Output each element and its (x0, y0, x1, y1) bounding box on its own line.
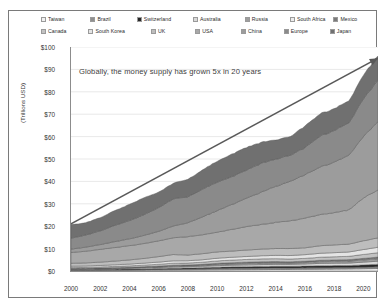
legend-item-south-africa[interactable]: South Africa (290, 13, 326, 25)
legend-swatch-icon (195, 29, 200, 34)
legend-swatch-icon (333, 17, 338, 22)
legend-swatch-icon (245, 17, 250, 22)
x-axis-tick-label: 2016 (298, 285, 312, 292)
legend-item-label: Taiwan (48, 16, 64, 22)
stacked-area-plot (71, 47, 378, 271)
legend-swatch-icon (90, 17, 95, 22)
legend-item-uk[interactable]: UK (151, 25, 165, 37)
legend-item-label: UK (158, 28, 165, 34)
legend-item-label: Mexico (340, 16, 357, 22)
y-axis-line (70, 47, 71, 271)
legend-item-label: Switzerland (144, 16, 171, 22)
legend-item-china[interactable]: China (241, 25, 262, 37)
legend-swatch-icon (41, 17, 46, 22)
legend-item-switzerland[interactable]: Switzerland (137, 13, 171, 25)
legend-item-label: Europe (291, 28, 308, 34)
legend-item-russia[interactable]: Russia (245, 13, 268, 25)
chart-legend: TaiwanBrazilSwitzerlandAustraliaRussiaSo… (41, 13, 375, 39)
legend-item-australia[interactable]: Australia (193, 13, 221, 25)
y-axis-tick-label: $50 (25, 156, 55, 163)
legend-item-south-korea[interactable]: South Korea (88, 25, 124, 37)
y-axis: $100$90$80$70$60$50$40$30$20$10$0 (25, 47, 55, 271)
legend-item-mexico[interactable]: Mexico (333, 13, 357, 25)
x-axis-tick-label: 2004 (122, 285, 136, 292)
legend-swatch-icon (193, 17, 198, 22)
legend-swatch-icon (151, 29, 156, 34)
y-axis-tick-label: $100 (25, 44, 55, 51)
y-axis-tick-label: $90 (25, 66, 55, 73)
legend-item-label: USA (202, 28, 213, 34)
plot-area (63, 47, 378, 282)
legend-item-canada[interactable]: Canada (41, 25, 66, 37)
y-axis-tick-label: $80 (25, 88, 55, 95)
legend-item-label: Australia (200, 16, 221, 22)
legend-item-brazil[interactable]: Brazil (90, 13, 110, 25)
legend-item-label: Canada (48, 28, 66, 34)
chart-annotation: Globally, the money supply has grown 5x … (79, 67, 261, 76)
x-axis: 2000200220042006200820102012201420162018… (71, 285, 378, 299)
y-axis-tick-label: $70 (25, 111, 55, 118)
legend-item-europe[interactable]: Europe (284, 25, 308, 37)
y-axis-tick-label: $40 (25, 178, 55, 185)
legend-swatch-icon (330, 29, 335, 34)
legend-item-usa[interactable]: USA (195, 25, 213, 37)
legend-swatch-icon (284, 29, 289, 34)
legend-swatch-icon (137, 17, 142, 22)
legend-item-japan[interactable]: Japan (330, 25, 351, 37)
area-series-group (71, 47, 378, 271)
legend-item-label: South Africa (297, 16, 326, 22)
y-axis-tick-label: $60 (25, 133, 55, 140)
x-axis-tick-label: 2002 (93, 285, 107, 292)
y-axis-tick-label: $10 (25, 245, 55, 252)
x-axis-tick-label: 2000 (64, 285, 78, 292)
x-axis-tick-label: 2018 (327, 285, 341, 292)
legend-item-label: South Korea (95, 28, 124, 34)
legend-row-1: TaiwanBrazilSwitzerlandAustraliaRussiaSo… (41, 13, 375, 25)
legend-item-label: Russia (252, 16, 268, 22)
y-axis-tick-label: $0 (25, 268, 55, 275)
x-axis-tick-label: 2014 (269, 285, 283, 292)
x-axis-tick-label: 2020 (356, 285, 370, 292)
chart-frame: TaiwanBrazilSwitzerlandAustraliaRussiaSo… (8, 10, 377, 298)
legend-swatch-icon (88, 29, 93, 34)
legend-item-label: Brazil (97, 16, 110, 22)
legend-row-2: CanadaSouth KoreaUKUSAChinaEuropeJapan (41, 25, 375, 37)
legend-item-label: Japan (337, 28, 351, 34)
legend-item-label: China (248, 28, 262, 34)
y-axis-tick-label: $30 (25, 200, 55, 207)
x-axis-tick-label: 2010 (210, 285, 224, 292)
legend-swatch-icon (41, 29, 46, 34)
legend-item-taiwan[interactable]: Taiwan (41, 13, 64, 25)
legend-swatch-icon (241, 29, 246, 34)
x-axis-line (70, 271, 378, 272)
x-axis-tick-label: 2008 (181, 285, 195, 292)
x-axis-tick-label: 2012 (239, 285, 253, 292)
y-axis-tick-label: $20 (25, 223, 55, 230)
legend-swatch-icon (290, 17, 295, 22)
x-axis-tick-label: 2006 (152, 285, 166, 292)
